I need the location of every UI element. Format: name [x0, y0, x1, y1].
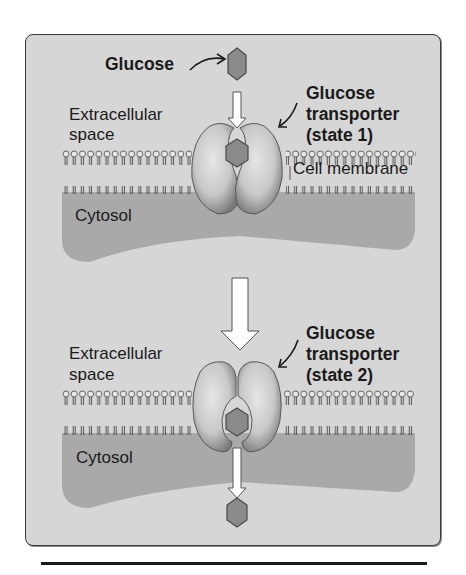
bottom-rule-divider: [41, 562, 427, 565]
cell-membrane-label: Cell membrane: [293, 160, 408, 178]
extracellular-label-line1: Extracellular: [69, 345, 163, 363]
extracellular-label-line2: space: [69, 366, 114, 384]
cytosol-label: Cytosol: [76, 449, 133, 467]
extracellular-label-line2: space: [69, 126, 114, 144]
diagram-canvas: [0, 0, 466, 575]
glucose-molecule-bound: [226, 408, 248, 436]
cytosol-label: Cytosol: [75, 207, 132, 225]
transporter-pointer-arrow: [280, 103, 297, 126]
transporter-label-line1: Glucose: [306, 84, 375, 103]
glucose-pointer-arrow: [190, 58, 224, 70]
panel-state-1: [62, 48, 416, 262]
lipid-bilayer-right: [284, 390, 414, 435]
glucose-molecule-bound: [226, 139, 248, 167]
transporter-label-line2: transporter: [306, 345, 399, 364]
lipid-bilayer-left: [62, 390, 192, 435]
transition-arrow: [221, 278, 259, 350]
transporter-label-line3: (state 2): [306, 366, 373, 385]
glucose-molecule: [228, 48, 246, 80]
transporter-label-line2: transporter: [306, 105, 399, 124]
transporter-label-line1: Glucose: [306, 324, 375, 343]
glucose-label: Glucose: [105, 55, 174, 74]
glucose-molecule-released: [227, 498, 247, 527]
extracellular-label-line1: Extracellular: [69, 106, 163, 124]
glucose-transporter-state-1: [192, 123, 282, 214]
down-arrow-small: [228, 92, 246, 128]
lipid-bilayer-left: [62, 148, 192, 194]
transporter-pointer-arrow: [280, 340, 298, 366]
transporter-label-line3: (state 1): [306, 126, 373, 145]
